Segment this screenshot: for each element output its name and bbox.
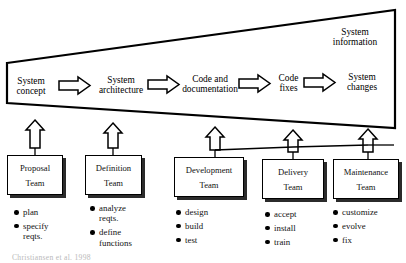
task-line: functions	[99, 238, 132, 248]
list-item: accept	[265, 209, 325, 219]
task-text: test	[185, 235, 197, 245]
task-list-definition: analyze reqts. define functions	[90, 203, 154, 252]
team-box-proposal[interactable]: Proposal Team	[7, 155, 63, 195]
task-text: build	[185, 221, 203, 231]
list-item: plan	[14, 207, 74, 217]
team-name-line1: Proposal	[20, 163, 50, 173]
stage-label-system-changes: System changes	[338, 72, 386, 92]
up-arrow-icon	[26, 120, 44, 148]
task-line: fix	[342, 235, 352, 245]
task-line: customize	[342, 207, 378, 217]
stage-line1: Code and	[192, 74, 228, 84]
system-information-line2: information	[333, 37, 377, 47]
team-name-line2: Team	[104, 178, 123, 188]
list-item: fix	[333, 235, 403, 245]
diagram-canvas: System information System concept System…	[0, 0, 406, 263]
task-line: specify	[23, 221, 48, 231]
system-information-label: System information	[322, 27, 388, 47]
right-arrow-icon	[304, 74, 335, 91]
team-name-line2: Team	[284, 182, 303, 192]
list-item: customize	[333, 207, 403, 217]
source-caption: Christiansen et al. 1998	[12, 253, 91, 262]
task-line: design	[185, 207, 208, 217]
task-text: specify reqts.	[23, 221, 48, 242]
task-list-maintenance: customize evolve fix	[333, 207, 403, 249]
right-arrow-icon	[59, 77, 90, 94]
stage-line2: changes	[347, 82, 377, 92]
up-arrow-icon	[359, 129, 377, 152]
team-box-delivery[interactable]: Delivery Team	[262, 159, 324, 199]
right-arrow-icon	[239, 75, 270, 92]
team-name-line2: Team	[26, 178, 45, 188]
bullet-icon	[333, 238, 338, 243]
stage-line1: System	[348, 72, 376, 82]
task-line: test	[185, 235, 197, 245]
bullet-icon	[176, 238, 181, 243]
up-arrow-icon	[206, 127, 224, 150]
task-line: evolve	[342, 221, 365, 231]
list-item: specify reqts.	[14, 221, 74, 242]
task-line: define	[99, 227, 132, 237]
team-name-line1: Delivery	[278, 167, 308, 177]
bullet-icon	[265, 240, 270, 245]
system-information-line1: System	[341, 27, 369, 37]
stage-line1: System	[17, 76, 45, 86]
bullet-icon	[176, 224, 181, 229]
task-line: reqts.	[23, 231, 48, 241]
bullet-icon	[90, 206, 95, 211]
list-item: evolve	[333, 221, 403, 231]
bullet-icon	[14, 210, 19, 215]
list-item: design	[176, 207, 236, 217]
list-item: define functions	[90, 227, 154, 248]
list-item: test	[176, 235, 236, 245]
stage-label-code-fixes: Code fixes	[271, 73, 306, 93]
up-arrow-icon	[104, 123, 122, 148]
stage-label-system-concept: System concept	[6, 76, 56, 96]
bullet-icon	[14, 224, 19, 229]
task-line: build	[185, 221, 203, 231]
bullet-icon	[176, 210, 181, 215]
stage-line1: Code	[279, 73, 299, 83]
team-box-definition[interactable]: Definition Team	[85, 155, 142, 195]
team-name-line1: Development	[186, 165, 232, 175]
stage-line2: architecture	[99, 85, 143, 95]
task-line: train	[274, 237, 290, 247]
task-list-development: design build test	[176, 207, 236, 249]
task-text: analyze reqts.	[99, 203, 126, 224]
bullet-icon	[90, 230, 95, 235]
list-item: build	[176, 221, 236, 231]
stage-label-code-and-documentation: Code and documentation	[179, 74, 241, 94]
task-line: plan	[23, 207, 38, 217]
list-item: train	[265, 237, 325, 247]
right-arrow-icon	[148, 76, 179, 93]
task-text: train	[274, 237, 290, 247]
task-text: accept	[274, 209, 296, 219]
task-list-proposal: plan specify reqts.	[14, 207, 74, 245]
task-text: design	[185, 207, 208, 217]
task-text: plan	[23, 207, 38, 217]
task-line: analyze	[99, 203, 126, 213]
up-arrow-icon	[284, 130, 302, 152]
task-text: define functions	[99, 227, 132, 248]
task-line: reqts.	[99, 213, 126, 223]
stage-line2: documentation	[182, 84, 238, 94]
team-name-line2: Team	[200, 180, 219, 190]
bullet-icon	[265, 212, 270, 217]
stage-label-system-architecture: System architecture	[93, 75, 149, 95]
bullet-icon	[333, 210, 338, 215]
team-box-development[interactable]: Development Team	[174, 157, 244, 197]
task-line: accept	[274, 209, 296, 219]
team-box-maintenance[interactable]: Maintenance Team	[333, 159, 399, 199]
task-text: evolve	[342, 221, 365, 231]
list-item: analyze reqts.	[90, 203, 154, 224]
task-list-delivery: accept install train	[265, 209, 325, 251]
bullet-icon	[265, 226, 270, 231]
team-name-line1: Definition	[96, 163, 131, 173]
task-text: fix	[342, 235, 352, 245]
stage-line1: System	[107, 75, 135, 85]
task-text: install	[274, 223, 296, 233]
stage-line2: concept	[16, 86, 45, 96]
team-name-line1: Maintenance	[344, 167, 388, 177]
stage-line2: fixes	[279, 83, 297, 93]
list-item: install	[265, 223, 325, 233]
